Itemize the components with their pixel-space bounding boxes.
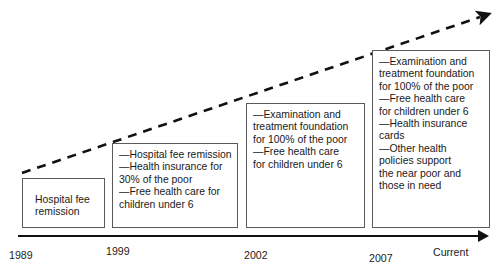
timeline-axis-arrow-icon xyxy=(478,230,489,242)
stage-2007-text: —Examination and treatment foundation fo… xyxy=(379,56,483,192)
stage-2002-text: —Examination and treatment foundation fo… xyxy=(253,109,358,171)
stage-box-1989: Hospital fee remission xyxy=(22,178,105,228)
stage-2007-line-11: those in need xyxy=(379,180,483,192)
stage-1999-line-4: —Free health care for xyxy=(119,186,231,198)
health-policy-timeline-figure: Hospital fee remission —Hospital fee rem… xyxy=(0,0,503,275)
stage-2007-line-9: policies support xyxy=(379,155,483,167)
stage-1999-line-1: —Hospital fee remission xyxy=(119,149,231,161)
axis-tick-1989: 1989 xyxy=(9,249,33,261)
stage-1999-line-2: —Health insurance for xyxy=(119,161,231,173)
stage-2007-line-3: for 100% of the poor xyxy=(379,81,483,93)
stage-2007-line-4: —Free health care xyxy=(379,93,483,105)
stage-2007-line-6: —Health insurance xyxy=(379,118,483,130)
stage-2002-line-5: for children under 6 xyxy=(253,159,358,171)
stage-2007-line-7: cards xyxy=(379,130,483,142)
stage-2007-line-1: —Examination and xyxy=(379,56,483,68)
stage-1989-line-2: remission xyxy=(35,206,98,218)
stage-box-2002: —Examination and treatment foundation fo… xyxy=(246,103,365,228)
axis-tick-1999: 1999 xyxy=(106,245,130,257)
axis-tick-2007: 2007 xyxy=(369,252,393,264)
stage-2002-line-2: treatment foundation xyxy=(253,121,358,133)
stage-2007-line-8: —Other health xyxy=(379,143,483,155)
stage-2007-line-10: the near poor and xyxy=(379,168,483,180)
stage-2002-line-4: —Free health care xyxy=(253,146,358,158)
stage-2007-line-2: treatment foundation xyxy=(379,68,483,80)
axis-tick-2002: 2002 xyxy=(244,249,268,261)
stage-2007-line-5: for children under 6 xyxy=(379,106,483,118)
stage-1989-text: Hospital fee remission xyxy=(29,184,98,219)
stage-1989-line-1: Hospital fee xyxy=(35,194,98,206)
timeline-axis-line xyxy=(18,235,480,237)
stage-box-2007: —Examination and treatment foundation fo… xyxy=(372,50,490,228)
stage-1999-line-3: 30% of the poor xyxy=(119,174,231,186)
stage-box-1999: —Hospital fee remission —Health insuranc… xyxy=(112,143,238,228)
stage-2002-line-3: for 100% of the poor xyxy=(253,134,358,146)
axis-tick-current: Current xyxy=(433,246,468,258)
stage-1999-text: —Hospital fee remission —Health insuranc… xyxy=(119,149,231,211)
stage-2002-line-1: —Examination and xyxy=(253,109,358,121)
stage-1999-line-5: children under 6 xyxy=(119,199,231,211)
